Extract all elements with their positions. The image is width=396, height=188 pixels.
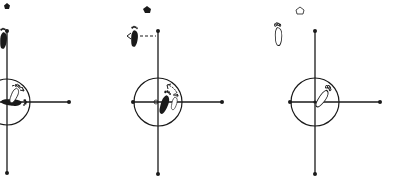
filled-pentagon-marker <box>4 3 10 9</box>
panel-1 <box>0 3 71 175</box>
filled-pentagon-marker <box>143 6 151 13</box>
axis-endpoint-dot <box>156 172 160 176</box>
left-arrow-icon <box>127 33 131 39</box>
foot-outline-icon <box>274 22 283 45</box>
axis-endpoint-dot <box>288 100 292 104</box>
axis-endpoint-dot <box>67 100 71 104</box>
foot-position-diagram <box>0 0 396 188</box>
axis-endpoint-dot <box>220 100 224 104</box>
axis-endpoint-dot <box>5 171 9 175</box>
foot-outline-icon <box>314 84 332 109</box>
axis-endpoint-dot <box>156 29 160 33</box>
axis-endpoint-dot <box>313 29 317 33</box>
foot-filled-icon <box>0 28 7 49</box>
axis-endpoint-dot <box>313 172 317 176</box>
outline-pentagon-marker <box>296 7 304 14</box>
axis-endpoint-dot <box>131 100 135 104</box>
axis-endpoint-dot <box>378 100 382 104</box>
panel-2 <box>127 6 224 176</box>
panel-3 <box>274 7 382 176</box>
foot-filled-icon <box>131 26 138 47</box>
